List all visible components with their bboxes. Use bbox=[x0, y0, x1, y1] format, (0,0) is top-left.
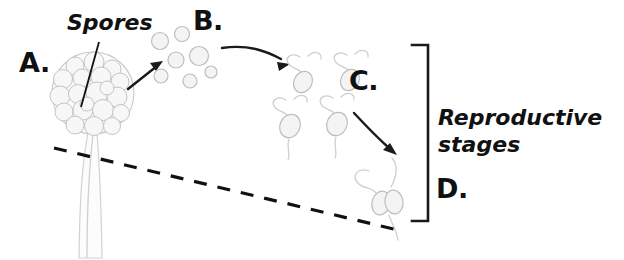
arrow-b-to-c bbox=[222, 47, 290, 71]
free-spore bbox=[154, 69, 168, 83]
reproductive-stages-bracket bbox=[412, 45, 428, 221]
stage-d-fused-gametes bbox=[355, 158, 404, 240]
dashed-ground-line bbox=[54, 148, 402, 231]
germinating-cell bbox=[273, 95, 307, 160]
free-spore bbox=[183, 74, 197, 88]
label-d: D. bbox=[436, 173, 468, 204]
bracket-label-line1: Reproductive bbox=[438, 105, 602, 130]
free-spore bbox=[205, 66, 217, 78]
diagram-canvas: Spores A. B. C. D. Reproductive stages bbox=[0, 0, 624, 260]
label-a: A. bbox=[19, 47, 50, 78]
germinating-cell bbox=[287, 52, 321, 95]
stalk-shape bbox=[79, 132, 102, 258]
label-b: B. bbox=[193, 5, 223, 36]
free-spore bbox=[175, 27, 190, 42]
free-spore bbox=[190, 47, 209, 66]
arrow-c-to-d bbox=[354, 113, 397, 155]
sporangium-inner-spores bbox=[50, 52, 130, 136]
label-c: C. bbox=[349, 65, 378, 96]
free-spore bbox=[152, 33, 169, 50]
bracket-label-line2: stages bbox=[438, 132, 520, 157]
free-spore bbox=[168, 52, 184, 68]
fungal-lifecycle-diagram: Spores A. B. C. D. Reproductive stages bbox=[0, 0, 624, 260]
germinating-cell bbox=[320, 93, 354, 158]
spores-label: Spores bbox=[67, 10, 153, 35]
